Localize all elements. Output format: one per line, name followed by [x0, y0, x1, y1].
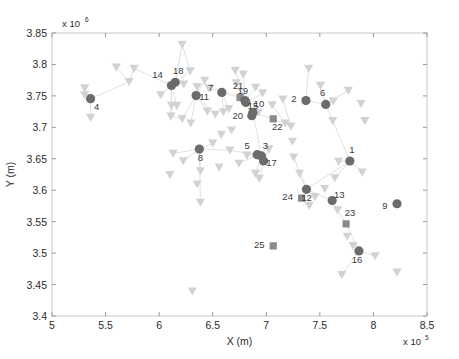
hub-marker-label: 12: [301, 192, 312, 203]
leaf-marker[interactable]: [156, 91, 165, 99]
square-marker-label: 25: [254, 239, 265, 250]
leaf-marker[interactable]: [125, 78, 134, 86]
leaf-marker[interactable]: [343, 233, 352, 241]
hub-marker[interactable]: [301, 96, 310, 105]
x-tick-label: 7.5: [313, 319, 328, 331]
hub-marker-label: 10: [254, 98, 265, 109]
hub-marker[interactable]: [248, 108, 257, 117]
leaf-marker[interactable]: [86, 114, 95, 122]
hub-marker-label: 9: [382, 200, 387, 211]
leaf-marker[interactable]: [179, 157, 188, 165]
leaf-marker[interactable]: [344, 87, 353, 95]
hub-marker-label: 18: [173, 65, 184, 76]
hub-marker-label: 20: [233, 110, 244, 121]
leaf-marker[interactable]: [255, 175, 264, 183]
y-tick-label: 3.75: [27, 90, 48, 102]
leaf-marker[interactable]: [165, 171, 174, 179]
leaf-marker[interactable]: [357, 100, 366, 108]
hub-marker-label: 6: [320, 87, 325, 98]
leaf-marker[interactable]: [219, 108, 228, 116]
leaf-marker[interactable]: [337, 271, 346, 279]
y-axis-exponent-power: 6: [85, 16, 89, 23]
leaf-marker[interactable]: [168, 150, 177, 158]
hub-marker[interactable]: [321, 100, 330, 109]
leaf-marker[interactable]: [370, 252, 379, 260]
leaf-marker[interactable]: [227, 126, 236, 134]
hub-marker-label: 4: [94, 101, 99, 112]
y-tick-label: 3.6: [32, 184, 47, 196]
x-tick-label: 8: [371, 319, 377, 331]
x-tick-label: 5.5: [98, 319, 113, 331]
hub-marker-label: 1: [349, 144, 354, 155]
square-marker[interactable]: [270, 242, 277, 249]
x-tick-label: 6: [156, 319, 162, 331]
leaf-marker[interactable]: [320, 185, 329, 193]
hub-marker[interactable]: [345, 156, 354, 165]
hub-marker[interactable]: [217, 88, 226, 97]
y-tick-label: 3.55: [27, 216, 48, 228]
square-marker-label: 22: [272, 121, 283, 132]
leaf-marker[interactable]: [217, 131, 226, 139]
leaf-marker[interactable]: [330, 174, 339, 182]
leaf-marker[interactable]: [268, 101, 277, 109]
leaf-marker[interactable]: [295, 170, 304, 178]
x-axis-exponent-power: 5: [425, 334, 429, 341]
leaf-marker[interactable]: [328, 117, 337, 125]
graph-edge: [171, 86, 172, 117]
hub-marker-label: 13: [334, 189, 345, 200]
square-marker-label: 24: [282, 191, 293, 202]
hub-marker[interactable]: [171, 78, 180, 87]
leaf-marker[interactable]: [179, 80, 188, 88]
leaf-marker[interactable]: [186, 119, 195, 127]
leaf-marker[interactable]: [392, 269, 401, 277]
y-axis-exponent: x 10: [62, 18, 80, 29]
leaf-marker[interactable]: [258, 89, 267, 97]
leaf-marker[interactable]: [234, 160, 243, 168]
hub-marker-label: 2: [291, 93, 296, 104]
x-tick-label: 7: [263, 319, 269, 331]
y-tick-label: 3.65: [27, 153, 48, 165]
leaf-marker[interactable]: [208, 140, 217, 148]
leaf-marker[interactable]: [289, 153, 298, 161]
y-tick-label: 3.85: [27, 27, 48, 39]
x-axis-exponent: x 10: [403, 336, 421, 347]
leaf-marker[interactable]: [288, 138, 297, 146]
leaf-marker[interactable]: [129, 65, 138, 73]
leaf-marker[interactable]: [188, 287, 197, 295]
leaf-marker[interactable]: [215, 163, 224, 171]
x-tick-label: 8.5: [420, 319, 435, 331]
square-marker[interactable]: [343, 220, 350, 227]
y-tick-label: 3.8: [32, 58, 47, 70]
hub-marker[interactable]: [392, 199, 401, 208]
leaf-marker[interactable]: [203, 108, 212, 116]
graph-edge: [175, 45, 182, 83]
leaf-marker[interactable]: [333, 206, 342, 214]
leaf-marker[interactable]: [178, 115, 187, 123]
square-marker-label: 23: [345, 207, 356, 218]
y-tick-label: 3.45: [27, 279, 48, 291]
leaf-marker[interactable]: [239, 70, 248, 78]
leaf-marker[interactable]: [304, 65, 313, 73]
x-tick-label: 5: [49, 319, 55, 331]
graph-edge: [91, 82, 130, 99]
leaf-marker[interactable]: [286, 123, 295, 131]
graph-edge: [326, 104, 350, 161]
leaf-marker[interactable]: [211, 111, 220, 119]
hub-marker-label: 3: [263, 140, 268, 151]
leaf-marker[interactable]: [178, 41, 187, 49]
graph-edge: [306, 69, 309, 101]
leaf-marker[interactable]: [358, 169, 367, 177]
leaf-marker[interactable]: [360, 117, 369, 125]
leaf-marker[interactable]: [196, 167, 205, 175]
leaf-marker[interactable]: [310, 193, 319, 201]
leaf-marker[interactable]: [196, 199, 205, 207]
hub-marker-label: 16: [352, 254, 363, 265]
leaf-marker[interactable]: [278, 96, 287, 104]
hub-marker-label: 7: [208, 82, 213, 93]
leaf-marker[interactable]: [231, 67, 240, 75]
hub-marker-label: 5: [245, 140, 250, 151]
scatter-plot[interactable]: 2122242325414181171915201026531781121391…: [0, 0, 459, 359]
y-tick-label: 3.4: [32, 310, 47, 322]
hub-marker-label: 8: [198, 152, 203, 163]
leaf-marker[interactable]: [186, 67, 195, 75]
